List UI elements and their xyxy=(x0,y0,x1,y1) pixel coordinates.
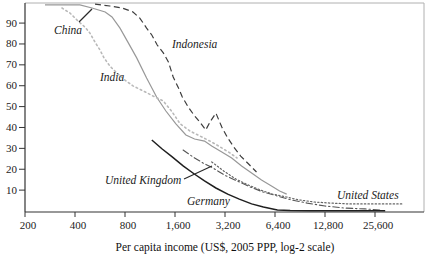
series-label-indonesia: Indonesia xyxy=(171,38,218,50)
series-label-india: India xyxy=(99,71,125,83)
poverty-income-chart: 1020304050607080902004008001,6003,2006,4… xyxy=(0,0,431,259)
x-tick-label: 200 xyxy=(20,219,37,231)
plot-frame xyxy=(25,3,424,212)
chart-canvas: 1020304050607080902004008001,6003,2006,4… xyxy=(0,0,431,259)
series-label-germany: Germany xyxy=(187,195,231,208)
series-label-united-kingdom: United Kingdom xyxy=(105,174,181,187)
x-tick-label: 6,400 xyxy=(266,219,291,231)
x-tick-label: 400 xyxy=(70,219,87,231)
x-tick-label: 1,600 xyxy=(166,219,191,231)
y-tick-label: 20 xyxy=(6,163,18,175)
y-tick-label: 50 xyxy=(6,100,18,112)
x-axis-title: Per capita income (US$, 2005 PPP, log-2 … xyxy=(116,241,335,254)
x-tick-label: 3,200 xyxy=(216,219,241,231)
y-tick-label: 60 xyxy=(6,79,18,91)
y-tick-label: 80 xyxy=(6,37,18,49)
y-tick-label: 30 xyxy=(6,142,18,154)
x-tick-label: 25,600 xyxy=(363,219,394,231)
y-tick-label: 70 xyxy=(6,58,18,70)
x-tick-label: 800 xyxy=(120,219,137,231)
series-label-united-states: United States xyxy=(337,189,399,201)
x-tick-label: 12,800 xyxy=(313,219,344,231)
y-tick-label: 90 xyxy=(6,17,18,29)
series-line-indonesia xyxy=(95,4,257,172)
y-tick-label: 10 xyxy=(6,184,18,196)
series-label-china: China xyxy=(54,24,82,36)
y-tick-label: 40 xyxy=(6,121,18,133)
series-labels: ChinaIndiaIndonesiaUnited KingdomGermany… xyxy=(54,9,399,208)
label-pointer-china xyxy=(79,9,92,22)
series-lines xyxy=(45,4,402,211)
